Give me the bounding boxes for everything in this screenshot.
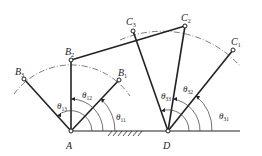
label-theta12: θ12	[82, 90, 92, 101]
label-C3: C3	[126, 16, 136, 28]
label-C1: C1	[231, 36, 241, 48]
label-theta33: θ33	[161, 91, 171, 102]
joint-C3	[131, 29, 135, 33]
label-A: A	[65, 140, 73, 151]
joint-C2	[183, 24, 187, 28]
crank-AB1	[71, 80, 119, 131]
label-B3: B3	[15, 66, 24, 78]
ground-hatching	[108, 131, 142, 136]
joint-C1	[231, 48, 235, 52]
crank-AB3	[24, 79, 71, 131]
crank-trajectory-arc	[14, 65, 130, 96]
coupler-B2C2	[71, 26, 185, 60]
label-B2: B2	[65, 46, 74, 58]
label-theta13: θ13	[57, 101, 67, 112]
label-D: D	[162, 140, 171, 151]
four-bar-linkage-diagram: A D B1 B2 B3 C1 C2 C3 θ11 θ12 θ13 θ31 θ3…	[0, 0, 262, 156]
joint-D	[166, 129, 170, 133]
label-theta31: θ31	[219, 111, 229, 122]
label-theta11: θ11	[116, 112, 126, 123]
label-theta32: θ32	[183, 84, 193, 95]
joint-B1	[117, 78, 121, 82]
label-B1: B1	[118, 67, 127, 79]
rocker-DC3	[133, 31, 168, 131]
joint-B2	[69, 58, 73, 62]
label-C2: C2	[181, 12, 191, 24]
joint-A	[69, 129, 73, 133]
